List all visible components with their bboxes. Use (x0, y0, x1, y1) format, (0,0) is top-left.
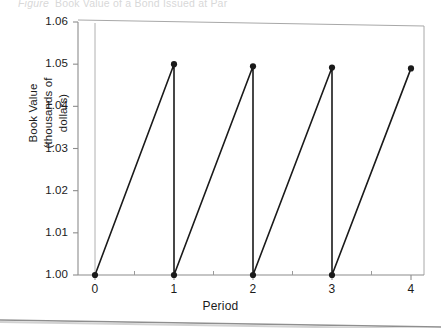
data-point-marker (171, 61, 177, 67)
y-axis-title-line-2: (thousands of dollars) (41, 58, 71, 168)
x-tick-label: 0 (83, 282, 107, 296)
data-point-marker (329, 64, 335, 70)
data-point-marker (171, 272, 177, 278)
y-axis-title-line-1: Book Value (26, 58, 41, 168)
x-axis-title: Period (0, 299, 441, 313)
data-point-marker (408, 65, 414, 71)
data-point-marker (92, 272, 98, 278)
figure-page: FigureBook Value of a Bond Issued at Par… (0, 0, 441, 328)
data-point-marker (329, 272, 335, 278)
data-point-marker (250, 63, 256, 69)
y-tick-label: 1.06 (34, 15, 68, 27)
x-tick-label: 4 (399, 282, 423, 296)
y-axis-tick-marks (73, 22, 78, 275)
x-tick-label: 1 (162, 282, 186, 296)
x-tick-label: 2 (241, 282, 265, 296)
y-tick-label: 1.01 (34, 226, 68, 238)
x-tick-label: 3 (320, 282, 344, 296)
y-axis-title: Book Value (thousands of dollars) (26, 58, 60, 168)
y-tick-label: 1.00 (34, 268, 68, 280)
plot-frame (78, 20, 424, 275)
book-value-series-line (95, 64, 411, 275)
y-tick-label: 1.02 (34, 184, 68, 196)
data-point-marker (250, 272, 256, 278)
